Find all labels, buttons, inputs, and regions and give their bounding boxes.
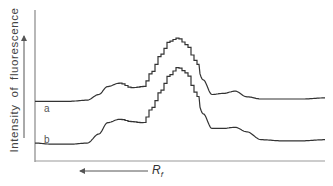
chart-canvas bbox=[0, 0, 333, 186]
x-axis-label-sub: f bbox=[161, 170, 163, 179]
x-axis-label-main: R bbox=[152, 163, 161, 177]
curve-b-label: b bbox=[44, 134, 50, 145]
curve-b bbox=[35, 68, 325, 145]
y-axis-label: Intensity of fluorescence bbox=[8, 7, 20, 152]
curve-a bbox=[35, 38, 325, 101]
curve-a-label: a bbox=[44, 103, 50, 114]
x-axis-label: Rf bbox=[152, 163, 163, 179]
